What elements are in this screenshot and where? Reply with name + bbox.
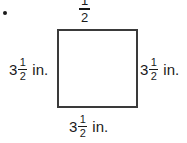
right-fraction: 1 2 bbox=[149, 57, 158, 82]
bottom-denominator: 2 bbox=[79, 127, 87, 139]
right-side-label: 3 1 2 in. bbox=[140, 57, 179, 82]
left-denominator: 2 bbox=[19, 70, 27, 82]
geometry-figure: 1 2 3 1 2 in. 3 1 2 in. 3 1 2 in. bbox=[0, 0, 187, 143]
top-denominator: 2 bbox=[80, 10, 89, 24]
left-numerator: 1 bbox=[19, 57, 27, 69]
top-fraction: 1 2 bbox=[79, 0, 90, 24]
right-denominator: 2 bbox=[150, 70, 158, 82]
bullet-marker bbox=[3, 11, 7, 15]
top-numerator: 1 bbox=[80, 0, 89, 8]
bottom-unit: in. bbox=[92, 119, 108, 134]
left-unit: in. bbox=[32, 62, 48, 77]
bottom-side-label: 3 1 2 in. bbox=[69, 114, 108, 139]
top-side-label: 1 2 bbox=[78, 0, 91, 24]
left-whole-number: 3 bbox=[9, 62, 17, 77]
right-unit: in. bbox=[163, 62, 179, 77]
bottom-fraction: 1 2 bbox=[78, 114, 87, 139]
square-shape bbox=[57, 29, 138, 108]
right-numerator: 1 bbox=[150, 57, 158, 69]
bottom-numerator: 1 bbox=[79, 114, 87, 126]
right-whole-number: 3 bbox=[140, 62, 148, 77]
left-side-label: 3 1 2 in. bbox=[9, 57, 48, 82]
left-fraction: 1 2 bbox=[18, 57, 27, 82]
bottom-whole-number: 3 bbox=[69, 119, 77, 134]
